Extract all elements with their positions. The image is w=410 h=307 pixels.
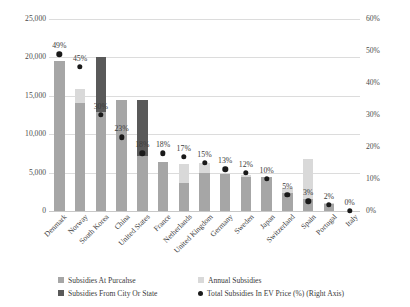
scatter-point[interactable] [119,135,124,140]
scatter-point-label: 2% [324,193,334,201]
chart-legend: Subsidies At PurcahseAnnual SubsidiesSub… [58,274,388,299]
scatter-point-label: 23% [114,125,128,133]
scatter-point[interactable] [140,151,145,156]
x-axis-category-labels: DenmarkNorwaySouth KoreaChinaUnited Stat… [49,213,360,263]
legend-label: Subsidies At Purcahse [68,276,136,285]
legend-item[interactable]: Total Subsidies In EV Price (%) (Right A… [198,287,388,299]
scatter-point[interactable] [77,64,82,69]
legend-item[interactable]: Subsidies At Purcahse [58,274,190,286]
scatter-point-label: 17% [177,145,191,153]
scatter-point[interactable] [285,192,290,197]
legend-item[interactable]: Subsidies From City Or State [58,287,190,299]
scatter-point[interactable] [57,51,62,56]
y-axis-tick-label: 0 [0,207,46,215]
scatter-point[interactable] [202,160,207,165]
secondary-y-axis-tick-label: 30% [366,111,408,119]
scatter-point[interactable] [181,154,186,159]
scatter-point[interactable] [160,151,165,156]
legend-label: Annual Subsidies [208,276,261,285]
scatter-point-label: 0% [344,199,354,207]
legend-square-marker-icon [58,277,64,283]
secondary-y-axis-tick-label: 0% [366,207,408,215]
secondary-y-axis-tick-label: 10% [366,175,408,183]
secondary-y-axis-tick-label: 40% [366,79,408,87]
legend-circle-marker-icon [198,291,203,296]
secondary-y-axis-tick-label: 50% [366,47,408,55]
scatter-point[interactable] [305,199,310,204]
scatter-point-label: 30% [94,103,108,111]
scatter-point[interactable] [326,202,331,207]
secondary-y-axis-tick-label: 20% [366,143,408,151]
scatter-point-label: 18% [135,141,149,149]
scatter-point-label: 5% [282,183,292,191]
plot-area: 49%45%30%23%18%18%17%15%13%12%10%5%3%2%0… [49,19,360,211]
scatter-point-label: 10% [260,167,274,175]
legend-item[interactable]: Annual Subsidies [198,274,388,286]
scatter-point-label: 45% [73,55,87,63]
legend-label: Subsidies From City Or State [68,289,157,298]
scatter-point-label: 49% [52,42,66,50]
scatter-point-label: 3% [303,189,313,197]
scatter-point[interactable] [223,167,228,172]
gridline [49,211,360,212]
y-axis-tick-label: 5,000 [0,169,46,177]
y-axis-tick-label: 10,000 [0,130,46,138]
legend-label: Total Subsidies In EV Price (%) (Right A… [207,289,344,298]
scatter-point[interactable] [264,176,269,181]
scatter-series-container: 49%45%30%23%18%18%17%15%13%12%10%5%3%2%0… [49,19,360,211]
scatter-point-label: 15% [197,151,211,159]
y-axis-tick-label: 25,000 [0,15,46,23]
scatter-point[interactable] [243,170,248,175]
legend-square-marker-icon [58,290,64,296]
y-axis-tick-label: 15,000 [0,92,46,100]
scatter-point-label: 13% [218,157,232,165]
scatter-point[interactable] [98,112,103,117]
ev-subsidies-chart: 49%45%30%23%18%18%17%15%13%12%10%5%3%2%0… [0,0,410,307]
y-axis-tick-label: 20,000 [0,53,46,61]
scatter-point-label: 12% [239,161,253,169]
legend-square-marker-icon [198,277,204,283]
scatter-point-label: 18% [156,141,170,149]
secondary-y-axis-tick-label: 60% [366,15,408,23]
